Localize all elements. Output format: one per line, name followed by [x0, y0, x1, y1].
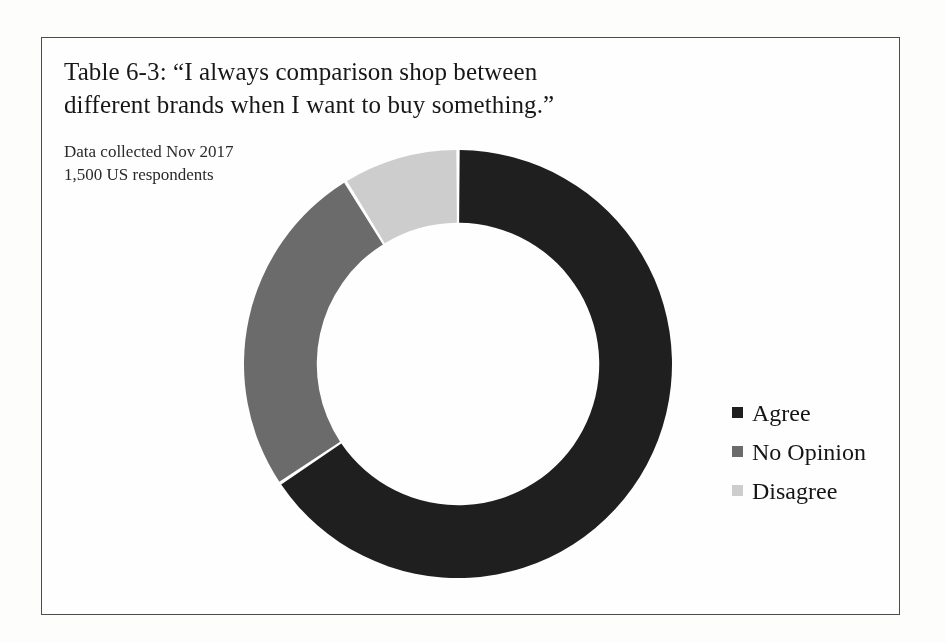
donut-chart-svg: [242, 148, 674, 580]
legend-label-disagree: Disagree: [752, 479, 837, 503]
donut-slice-no-opinion[interactable]: [244, 183, 383, 482]
chart-title: Table 6-3: “I always comparison shop bet…: [64, 56, 624, 121]
legend-item-disagree[interactable]: Disagree: [732, 471, 932, 510]
figure-page: Table 6-3: “I always comparison shop bet…: [0, 0, 946, 643]
legend-item-agree[interactable]: Agree: [732, 393, 932, 432]
legend-label-no-opinion: No Opinion: [752, 440, 866, 464]
chart-legend: Agree No Opinion Disagree: [732, 393, 932, 510]
legend-item-no-opinion[interactable]: No Opinion: [732, 432, 932, 471]
figure-frame: Table 6-3: “I always comparison shop bet…: [41, 37, 900, 615]
donut-chart: [242, 148, 674, 580]
legend-swatch-icon-agree: [732, 407, 743, 418]
legend-swatch-icon-disagree: [732, 485, 743, 496]
donut-slice-group: [244, 150, 672, 578]
legend-label-agree: Agree: [752, 401, 811, 425]
legend-swatch-icon-no-opinion: [732, 446, 743, 457]
